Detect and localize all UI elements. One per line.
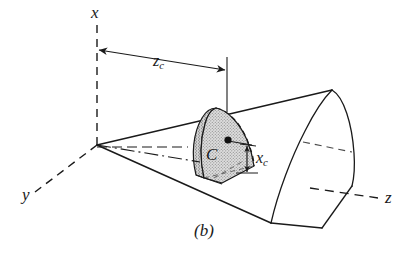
centroid-label: C bbox=[206, 146, 217, 163]
figure-container: x y z zc xc C (b) bbox=[0, 0, 405, 258]
xc-subscript: c bbox=[263, 156, 268, 168]
xc-dimension-label: xc bbox=[256, 150, 268, 168]
figure-caption: (b) bbox=[194, 222, 214, 239]
zc-dimension-label: zc bbox=[153, 53, 164, 71]
zc-subscript: c bbox=[159, 59, 164, 71]
x-axis-label: x bbox=[91, 4, 99, 21]
figure-drawing bbox=[0, 0, 405, 258]
z-axis-label: z bbox=[385, 189, 392, 206]
y-axis-label: y bbox=[22, 186, 30, 203]
centroid-dot-icon bbox=[224, 136, 231, 143]
solid-base-far-edge bbox=[271, 223, 322, 228]
y-axis-line bbox=[35, 145, 97, 192]
